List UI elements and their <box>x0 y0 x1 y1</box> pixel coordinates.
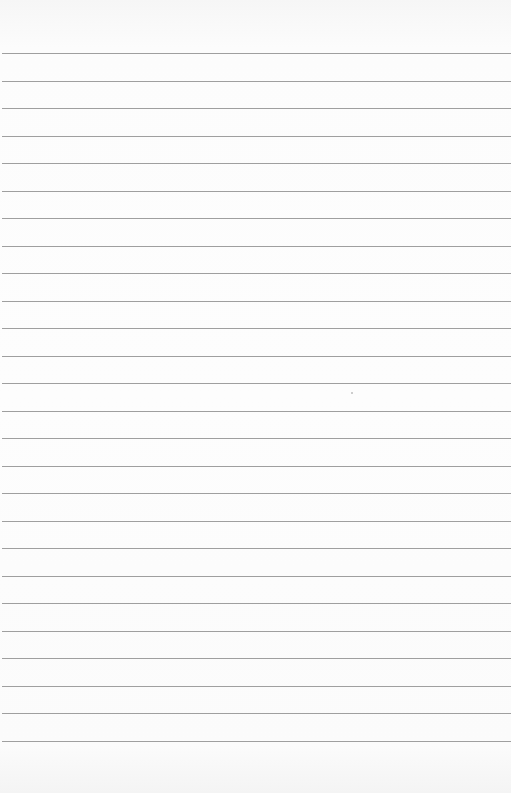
ruled-line <box>2 328 511 329</box>
ruled-line <box>2 218 511 219</box>
ruled-line <box>2 438 511 439</box>
ruled-line <box>2 273 511 274</box>
ruled-line <box>2 548 511 549</box>
ruled-line <box>2 356 511 357</box>
ruled-line <box>2 576 511 577</box>
ruled-line <box>2 686 511 687</box>
ruled-line <box>2 246 511 247</box>
ruled-line <box>2 383 511 384</box>
paper-speck <box>351 392 353 394</box>
ruled-line <box>2 603 511 604</box>
ruled-line <box>2 191 511 192</box>
ruled-line <box>2 136 511 137</box>
ruled-line <box>2 713 511 714</box>
ruled-line <box>2 163 511 164</box>
ruled-line <box>2 741 511 742</box>
ruled-line <box>2 521 511 522</box>
ruled-line <box>2 466 511 467</box>
ruled-line <box>2 81 511 82</box>
lined-paper-page <box>0 0 511 793</box>
ruled-line <box>2 301 511 302</box>
ruled-line <box>2 493 511 494</box>
ruled-line <box>2 411 511 412</box>
ruled-line <box>2 658 511 659</box>
ruled-line <box>2 631 511 632</box>
ruled-line <box>2 108 511 109</box>
ruled-line <box>2 53 511 54</box>
